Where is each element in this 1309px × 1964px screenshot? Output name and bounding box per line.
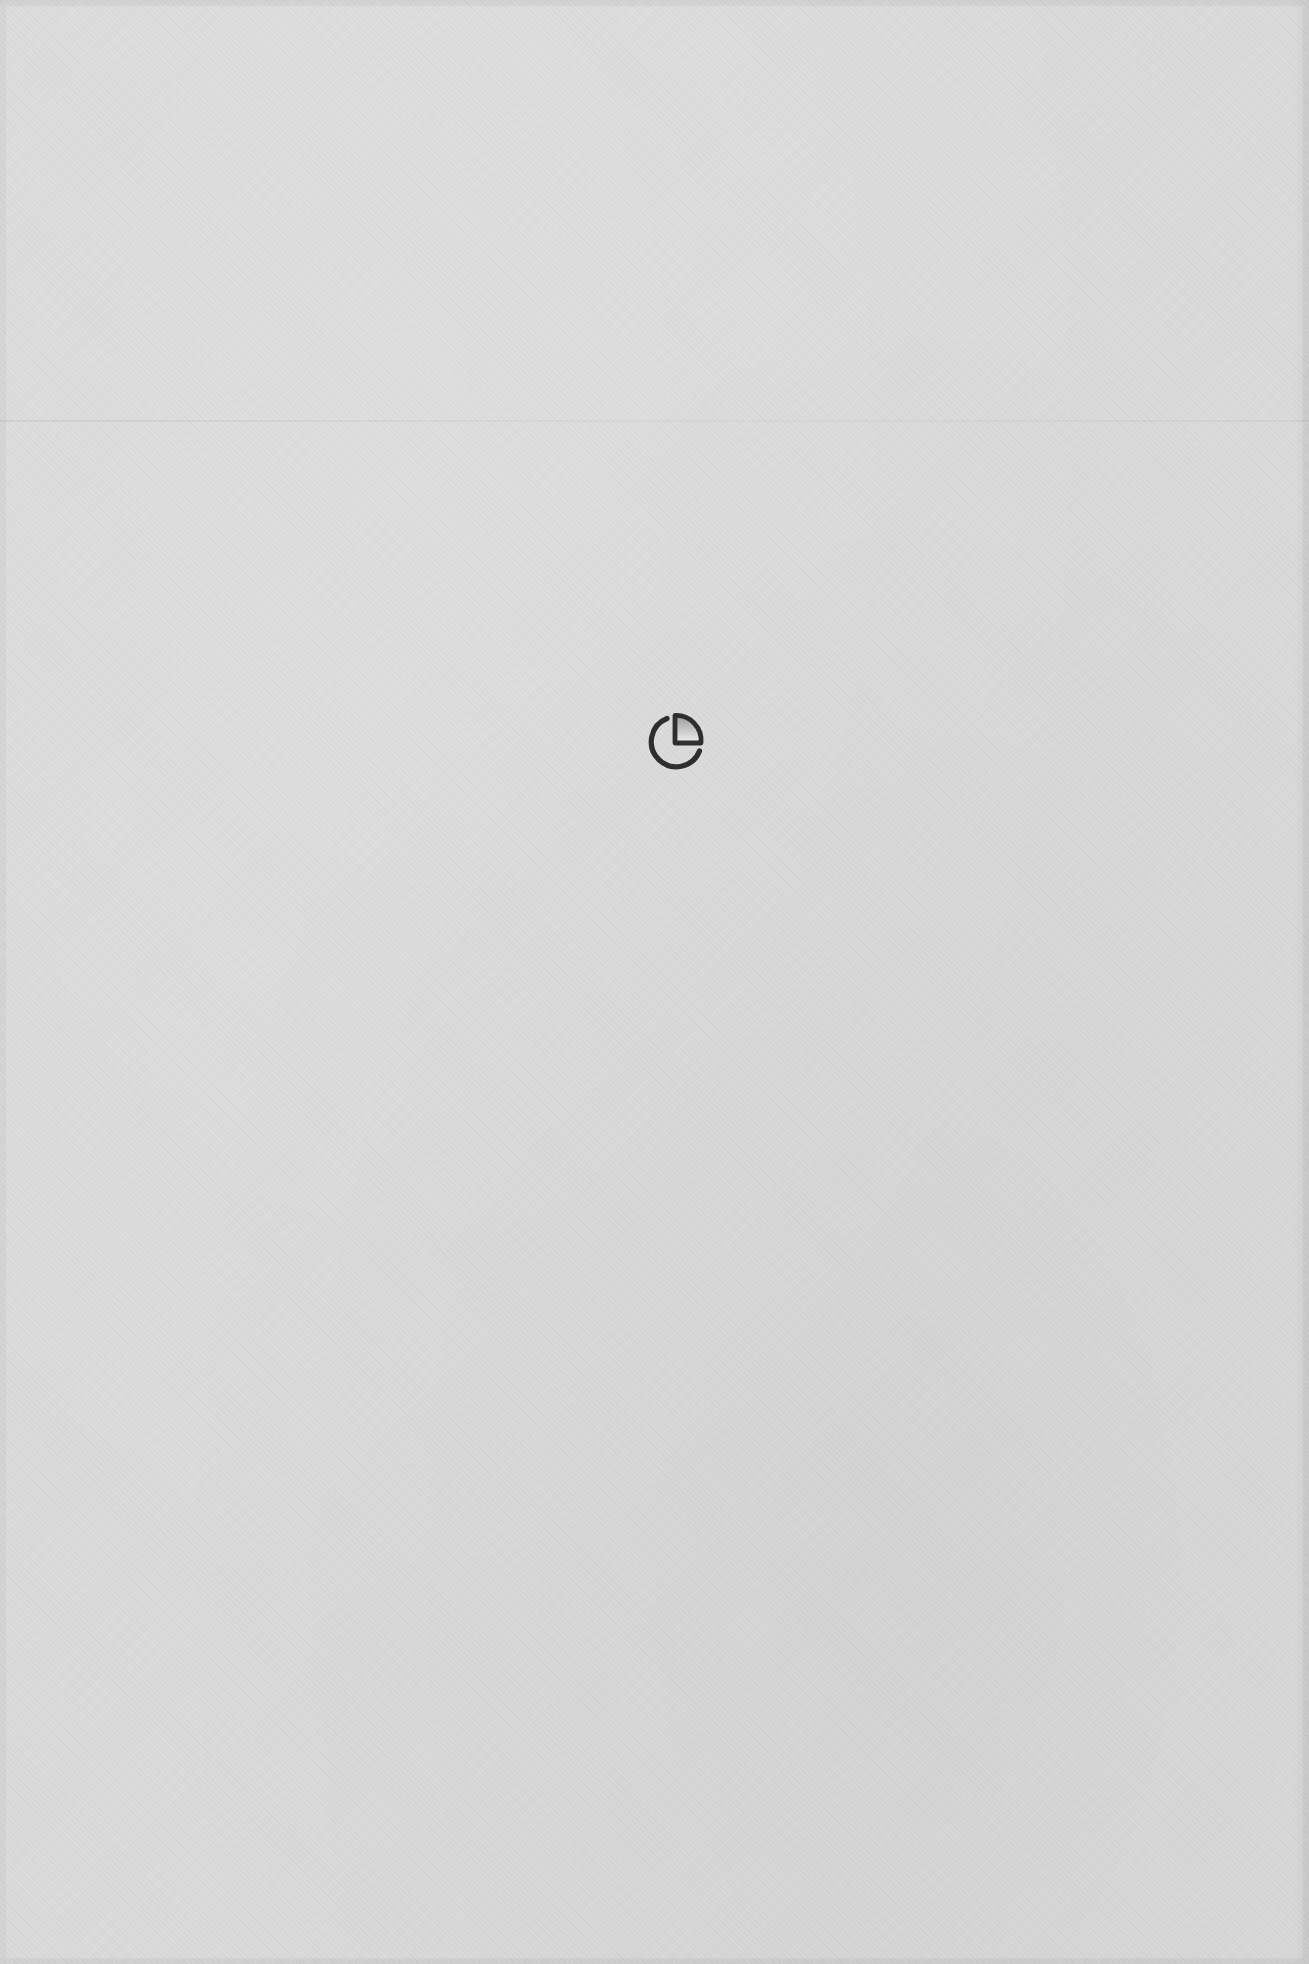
blank-paper-page [0, 0, 1309, 1964]
paper-fold-line [0, 420, 1309, 422]
pie-chart-icon [640, 710, 708, 778]
